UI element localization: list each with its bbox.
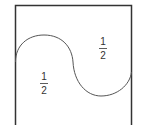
fraction-left-denominator: 2 — [41, 85, 47, 96]
s-curve-divider — [16, 35, 132, 96]
fraction-right-numerator: 1 — [100, 36, 106, 47]
fraction-right: 1 2 — [99, 36, 107, 61]
fraction-left: 1 2 — [40, 71, 48, 96]
fraction-left-numerator: 1 — [41, 71, 47, 82]
fraction-right-denominator: 2 — [100, 50, 106, 61]
diagram-canvas: 1 2 1 2 — [0, 0, 142, 125]
